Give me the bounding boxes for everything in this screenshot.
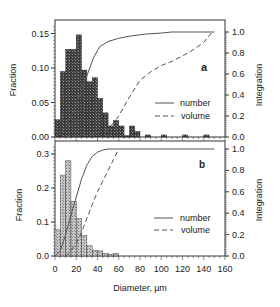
- y2-tick-label: 0.2: [232, 111, 245, 121]
- x-tick-label: 20: [71, 264, 81, 274]
- histogram-bar: [129, 126, 134, 137]
- histogram-bar: [145, 135, 150, 137]
- y2-axis-label-a: Integration: [254, 64, 264, 107]
- histogram-bar: [113, 120, 118, 137]
- y2-tick-label: 0.4: [232, 208, 245, 218]
- y-tick-label: 0.15: [31, 29, 49, 39]
- histogram-bar: [87, 246, 92, 256]
- x-tick-label: 0: [52, 264, 57, 274]
- histogram-bar: [92, 250, 97, 256]
- x-tick-label: 140: [196, 264, 211, 274]
- x-tick-label: 40: [92, 264, 102, 274]
- y-tick-label: 0.05: [31, 98, 49, 108]
- panel-label-b: b: [199, 159, 205, 170]
- histogram-bar: [204, 135, 209, 137]
- histogram-bar: [66, 161, 71, 256]
- y2-tick-label: 0.4: [232, 90, 245, 100]
- y2-axis-label-b: Integration: [254, 179, 264, 222]
- y-tick-label: 0.0: [36, 251, 49, 261]
- panel-label-a: a: [201, 61, 208, 73]
- y2-tick-label: 0.8: [232, 48, 245, 58]
- y-tick-label: 0.00: [31, 132, 49, 142]
- y2-tick-label: 0.8: [232, 165, 245, 175]
- legend-volume-b: volume: [181, 225, 210, 235]
- y2-axis-ticks-a: 0.00.20.40.60.81.0: [225, 27, 245, 142]
- panel-b: 0.00.10.20.3 0.00.20.40.60.81.0 02040608…: [14, 141, 264, 293]
- histogram-bar: [98, 251, 103, 256]
- y2-tick-label: 0.2: [232, 230, 245, 240]
- histogram-bar: [135, 131, 140, 137]
- panel-a: 0.000.050.100.15 0.00.20.40.60.81.0 Frac…: [8, 20, 264, 142]
- histogram-bar: [82, 70, 87, 137]
- histogram-bar: [183, 135, 188, 137]
- y2-tick-label: 1.0: [232, 144, 245, 154]
- x-axis-label: Diameter, µm: [113, 283, 167, 293]
- legend-number-b: number: [180, 213, 211, 223]
- y-axis-ticks-b: 0.00.10.20.3: [36, 147, 55, 261]
- histogram-bar: [87, 82, 92, 137]
- histogram-bar: [119, 126, 124, 137]
- histogram-figure: 0.000.050.100.15 0.00.20.40.60.81.0 Frac…: [0, 0, 280, 307]
- y-axis-label-b: Fraction: [14, 189, 24, 222]
- y2-tick-label: 0.6: [232, 187, 245, 197]
- y2-tick-label: 0.0: [232, 132, 245, 142]
- x-tick-label: 60: [114, 264, 124, 274]
- histogram-bar: [108, 126, 113, 137]
- y-tick-label: 0.2: [36, 183, 49, 193]
- legend-number-a: number: [180, 98, 211, 108]
- x-tick-label: 160: [217, 264, 232, 274]
- histogram-bar: [76, 35, 81, 137]
- y2-axis-ticks-b: 0.00.20.40.60.81.0: [225, 144, 245, 261]
- histogram-bar: [161, 135, 166, 137]
- histogram-bar: [71, 49, 76, 137]
- histogram-bar: [82, 236, 87, 256]
- x-tick-label: 100: [154, 264, 169, 274]
- y-tick-label: 0.10: [31, 63, 49, 73]
- histogram-bar: [124, 136, 129, 137]
- histogram-bar: [113, 253, 118, 256]
- legend-volume-a: volume: [181, 111, 210, 121]
- y-axis-label-a: Fraction: [8, 64, 18, 97]
- x-tick-label: 80: [135, 264, 145, 274]
- histogram-bar: [103, 253, 108, 256]
- histogram-bar: [108, 255, 113, 256]
- histogram-bar: [76, 219, 81, 256]
- x-tick-label: 120: [175, 264, 190, 274]
- y2-tick-label: 0.6: [232, 69, 245, 79]
- histogram-bar: [71, 202, 76, 256]
- y-tick-label: 0.1: [36, 217, 49, 227]
- y2-tick-label: 0.0: [232, 251, 245, 261]
- histogram-bar: [103, 113, 108, 137]
- x-axis-ticks-b: 020406080100120140160: [52, 256, 232, 274]
- y2-tick-label: 1.0: [232, 27, 245, 37]
- histogram-bar: [60, 71, 65, 137]
- histogram-bar: [92, 78, 97, 137]
- y-tick-label: 0.3: [36, 149, 49, 159]
